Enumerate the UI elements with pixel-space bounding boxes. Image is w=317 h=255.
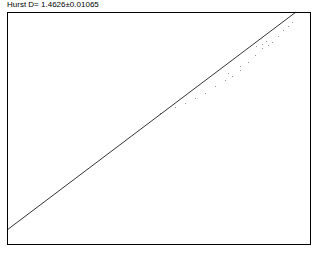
data-point [283,30,284,31]
data-point [256,46,257,47]
data-point [278,36,279,37]
data-point [262,48,263,49]
plot-frame [8,13,311,245]
data-point [225,80,226,81]
data-point [248,62,249,63]
data-point [268,45,269,46]
data-point [288,26,289,27]
data-point [215,86,216,87]
plot-area [0,0,317,255]
fit-line [7,12,296,230]
data-point [232,76,233,77]
data-point [185,103,186,104]
data-point [175,107,176,108]
data-point [262,44,263,45]
data-point [240,66,241,67]
data-point [272,42,273,43]
data-point [292,22,293,23]
data-point [205,93,206,94]
data-point [255,55,256,56]
data-point [266,41,267,42]
data-point [228,73,229,74]
data-point [195,98,196,99]
data-point [240,70,241,71]
data-points [160,22,293,114]
